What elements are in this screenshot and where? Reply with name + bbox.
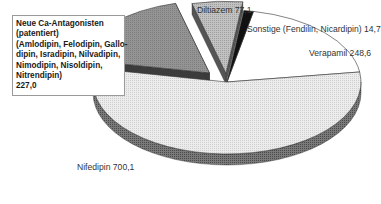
label-diltiazem: Diltiazem 77,1 [197,6,251,15]
box-line: dipin, Isradipin, Nilvadipin, [16,50,124,60]
label-sonstige: Sonstige (Fendilin, Nicardipin) 14,7 [247,25,381,34]
box-line: Neue Ca-Antagonisten [16,19,124,29]
slice-nifedipin [93,68,361,165]
box-line: (patentiert) [16,29,124,39]
box-line: Nitrendipin) [16,71,124,81]
label-box-neue-ca-antagonisten: Neue Ca-Antagonisten (patentiert) (Amlod… [12,15,125,96]
label-nifedipin: Nifedipin 700,1 [77,163,134,172]
box-line: 227,0 [16,81,124,91]
label-verapamil: Verapamil 248,6 [309,49,371,58]
box-line: (Amlodipin, Felodipin, Gallo- [16,40,124,50]
box-line: Nimodipin, Nisoldipin, [16,61,124,71]
